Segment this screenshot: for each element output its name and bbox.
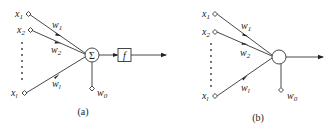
diagram-a: x1 x2 xl w1 w2 wl w0 Σ f (a)	[10, 8, 166, 118]
label-xl: xl	[10, 87, 17, 100]
label-w1: w1	[241, 20, 251, 33]
label-w0: w0	[97, 87, 108, 100]
label-wl: wl	[241, 82, 250, 95]
label-w1: w1	[52, 19, 62, 32]
input-node-x1	[213, 12, 218, 17]
diagram-b: x1 x2 xl w1 w2 wl w0 (b)	[201, 8, 323, 124]
caption-a: (a)	[77, 106, 88, 118]
label-x1: x1	[201, 8, 210, 21]
bias-node	[90, 86, 95, 91]
label-x1: x1	[14, 8, 23, 21]
input-node-xl	[22, 91, 27, 96]
ellipsis-dots	[210, 43, 212, 87]
label-wl: wl	[52, 78, 61, 91]
input-node-x2	[213, 30, 218, 35]
arrowhead-w1	[242, 33, 248, 37]
label-w0: w0	[287, 90, 298, 103]
arrowhead-w2	[242, 43, 248, 45]
input-node-xl	[213, 94, 218, 99]
perceptron-diagrams: x1 x2 xl w1 w2 wl w0 Σ f (a)	[0, 0, 335, 132]
sigma-symbol: Σ	[89, 50, 95, 61]
bias-node	[279, 88, 284, 93]
label-w2: w2	[240, 47, 251, 60]
arrowhead-w1	[55, 33, 61, 36]
input-node-x1	[26, 12, 31, 17]
neuron-node	[272, 50, 286, 64]
label-xl: xl	[201, 90, 208, 103]
label-x2: x2	[201, 26, 210, 39]
label-w2: w2	[51, 44, 62, 57]
input-node-x2	[28, 28, 33, 33]
ellipsis-dots	[21, 42, 23, 80]
label-x2: x2	[16, 24, 25, 37]
caption-b: (b)	[252, 112, 264, 124]
